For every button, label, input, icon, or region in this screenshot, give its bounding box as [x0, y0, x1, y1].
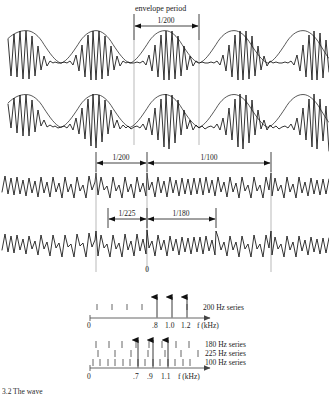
spectrum-multi-row-180hz — [96, 341, 189, 348]
figure-caption: 3.2 The wave — [2, 388, 329, 397]
spectrum-multi-row-100hz — [93, 359, 190, 366]
alignment-guides-top — [134, 30, 199, 145]
envelope-period-value: 1/200 — [157, 16, 174, 25]
waveform-panel-1 — [8, 31, 329, 80]
spectrum-200hz-minor-ticks — [97, 304, 187, 310]
figure-root: 0 .8 1.0 1.2 f (kHz) 200 Hz series — [0, 0, 329, 397]
spectrum-multi: 0 .7 .9 1.1 f (kHz) 180 Hz series 225 Hz… — [87, 340, 246, 381]
spectrum-multi-origin-label: 0 — [87, 372, 91, 381]
waveform-panel-4 — [2, 230, 329, 257]
panel4-left-span-label: 1/225 — [118, 209, 135, 218]
spectrum-200hz-origin-label: 0 — [87, 321, 91, 330]
spectrum-200hz-legend-label: 200 Hz series — [203, 303, 244, 312]
envelope-period-label: envelope period — [135, 4, 186, 13]
panel3-right-span-label: 1/100 — [200, 153, 217, 162]
spectrum-multi-row-225hz — [98, 350, 198, 357]
panel4-right-span-label: 1/180 — [172, 209, 189, 218]
waveform-panel-3 — [2, 173, 329, 198]
spectrum-200hz-xaxis-label: f (kHz) — [197, 321, 219, 330]
spectrum-legend-180hz: 180 Hz series — [205, 340, 246, 349]
spectrum-legend-225hz: 225 Hz series — [205, 349, 246, 358]
signal-figure: 0 .8 1.0 1.2 f (kHz) 200 Hz series — [0, 0, 329, 397]
spectrum-200hz: 0 .8 1.0 1.2 f (kHz) 200 Hz series — [87, 297, 244, 330]
spectrum-multi-tick-label-09: .9 — [147, 372, 153, 381]
spectrum-200hz-tick-label-10: 1.0 — [165, 321, 175, 330]
spectrum-multi-xaxis-label: f (kHz) — [178, 372, 200, 381]
waveform-panel-2 — [8, 94, 329, 151]
panel3-left-span-label: 1/200 — [112, 153, 129, 162]
spectrum-multi-tick-label-07: .7 — [133, 372, 139, 381]
spectrum-multi-components — [138, 340, 168, 368]
spectrum-legend-100hz: 100 Hz series — [205, 358, 246, 367]
spectrum-200hz-tick-label-12: 1.2 — [181, 321, 191, 330]
spectrum-200hz-components — [157, 297, 187, 318]
spectrum-multi-tick-label-11: 1.1 — [161, 372, 171, 381]
panel4-origin-label: 0 — [145, 265, 149, 274]
spectrum-200hz-tick-label-08: .8 — [152, 321, 158, 330]
